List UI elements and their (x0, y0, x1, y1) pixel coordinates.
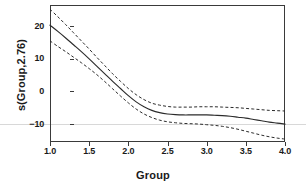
x-tick-mark (89, 142, 90, 146)
x-tick-mark (207, 142, 208, 146)
x-tick-label: 1.5 (72, 147, 106, 156)
gam-smooth-plot: 20100−10 1.01.52.02.53.03.54.0 Group s(G… (0, 0, 306, 193)
x-tick-label: 3.0 (190, 147, 224, 156)
x-tick-label: 2.5 (151, 147, 185, 156)
x-tick-mark (285, 142, 286, 146)
x-tick-mark (246, 142, 247, 146)
x-tick-mark (168, 142, 169, 146)
y-axis-title: s(Group,2.76) (15, 10, 27, 140)
x-tick-label: 4.0 (268, 147, 302, 156)
x-axis-tick-labels: 1.01.52.02.53.03.54.0 (0, 0, 306, 193)
x-tick-mark (50, 142, 51, 146)
x-tick-label: 3.5 (229, 147, 263, 156)
x-tick-mark (128, 142, 129, 146)
x-tick-label: 2.0 (111, 147, 145, 156)
x-tick-label: 1.0 (33, 147, 67, 156)
x-axis-title: Group (0, 169, 306, 181)
